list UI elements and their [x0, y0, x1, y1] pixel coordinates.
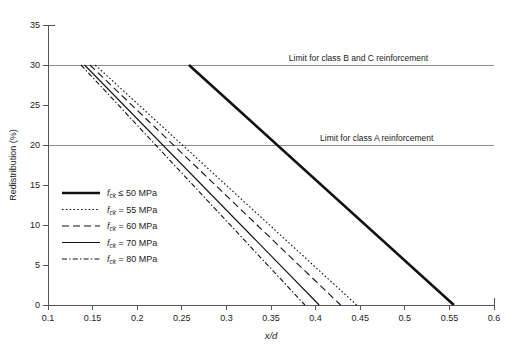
- x-tick-label: 0.4: [309, 313, 322, 323]
- chart-figure: 051015202530350.10.150.20.250.30.350.40.…: [0, 0, 521, 356]
- y-axis-title: Redistribution (%): [8, 129, 18, 201]
- x-tick-label: 0.6: [488, 313, 501, 323]
- x-tick-label: 0.15: [84, 313, 102, 323]
- limit-class-b-c-label: Limit for class B and C reinforcement: [289, 53, 429, 63]
- y-tick-label: 5: [35, 260, 40, 270]
- x-tick-label: 0.2: [131, 313, 144, 323]
- y-tick-label: 15: [30, 180, 40, 190]
- x-tick-label: 0.25: [173, 313, 191, 323]
- chart-background: [0, 0, 521, 356]
- x-tick-label: 0.45: [351, 313, 369, 323]
- limit-class-a-label: Limit for class A reinforcement: [320, 133, 434, 143]
- y-tick-label: 25: [30, 100, 40, 110]
- x-tick-label: 0.1: [42, 313, 55, 323]
- y-tick-label: 30: [30, 60, 40, 70]
- y-tick-label: 0: [35, 300, 40, 310]
- redistribution-chart: 051015202530350.10.150.20.250.30.350.40.…: [0, 0, 521, 356]
- y-tick-label: 10: [30, 220, 40, 230]
- x-tick-label: 0.35: [262, 313, 280, 323]
- x-tick-label: 0.55: [441, 313, 459, 323]
- x-tick-label: 0.5: [399, 313, 412, 323]
- y-tick-label: 20: [30, 140, 40, 150]
- x-axis-title: x/d: [264, 330, 278, 341]
- y-tick-label: 35: [30, 20, 40, 30]
- x-tick-label: 0.3: [220, 313, 233, 323]
